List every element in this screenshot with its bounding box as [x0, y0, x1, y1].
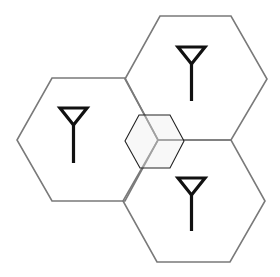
cellular-diagram — [0, 0, 280, 277]
antenna-icon — [178, 178, 205, 231]
overlap-hexagon — [125, 115, 184, 168]
antenna-icon — [178, 47, 205, 101]
antenna-icon — [60, 108, 87, 163]
